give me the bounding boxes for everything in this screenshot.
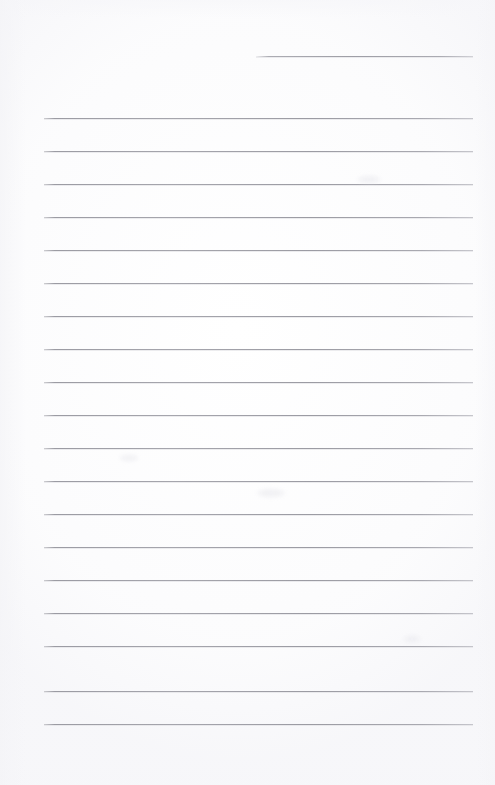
rule-2 bbox=[44, 151, 473, 152]
rule-4 bbox=[44, 217, 473, 218]
rule-11 bbox=[44, 448, 473, 449]
rule-15 bbox=[44, 580, 473, 581]
rule-13 bbox=[44, 514, 473, 515]
rule-8 bbox=[44, 349, 473, 350]
rule-7 bbox=[44, 316, 473, 317]
scan-smudge-2 bbox=[258, 489, 284, 497]
rule-19 bbox=[44, 724, 473, 725]
rule-12 bbox=[44, 481, 473, 482]
scanned-page bbox=[0, 0, 495, 785]
rule-18 bbox=[44, 691, 473, 692]
scan-smudge-4 bbox=[404, 636, 420, 642]
rule-10 bbox=[44, 415, 473, 416]
rule-16 bbox=[44, 613, 473, 614]
scan-smudge-3 bbox=[120, 455, 138, 461]
scan-smudge-1 bbox=[358, 176, 380, 183]
rule-3 bbox=[44, 184, 473, 185]
rule-14 bbox=[44, 547, 473, 548]
rule-6 bbox=[44, 283, 473, 284]
rule-9 bbox=[44, 382, 473, 383]
rule-1 bbox=[44, 118, 473, 119]
rule-partial-top bbox=[256, 56, 473, 57]
rule-5 bbox=[44, 250, 473, 251]
rule-17 bbox=[44, 646, 473, 647]
